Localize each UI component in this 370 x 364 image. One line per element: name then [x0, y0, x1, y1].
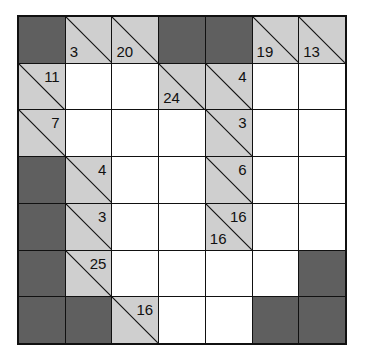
input-cell[interactable]	[159, 251, 205, 297]
across-clue: 16	[230, 209, 247, 224]
blocked-cell	[299, 297, 345, 343]
input-cell[interactable]	[253, 110, 299, 156]
input-cell[interactable]	[112, 64, 158, 110]
input-cell[interactable]	[299, 110, 345, 156]
input-cell[interactable]	[253, 251, 299, 297]
clue-cell: 24	[159, 64, 205, 110]
clue-cell: 3	[206, 110, 252, 156]
input-cell[interactable]	[66, 64, 112, 110]
clue-cell: 19	[253, 17, 299, 63]
input-cell[interactable]	[66, 110, 112, 156]
input-cell[interactable]	[112, 110, 158, 156]
across-clue: 7	[51, 115, 59, 130]
input-cell[interactable]	[299, 157, 345, 203]
across-clue: 25	[90, 256, 107, 271]
clue-cell: 13	[299, 17, 345, 63]
input-cell[interactable]	[159, 110, 205, 156]
input-cell[interactable]	[112, 204, 158, 250]
down-clue: 16	[210, 231, 227, 246]
blocked-cell	[206, 17, 252, 63]
clue-cell: 4	[206, 64, 252, 110]
down-clue: 24	[163, 90, 180, 105]
down-clue: 20	[116, 44, 133, 59]
blocked-cell	[19, 297, 65, 343]
clue-cell: 3	[66, 204, 112, 250]
across-clue: 6	[238, 162, 246, 177]
across-clue: 4	[238, 69, 246, 84]
input-cell[interactable]	[112, 251, 158, 297]
clue-cell: 16	[112, 297, 158, 343]
blocked-cell	[19, 157, 65, 203]
blocked-cell	[19, 17, 65, 63]
clue-cell: 6	[206, 157, 252, 203]
clue-cell: 20	[112, 17, 158, 63]
down-clue: 13	[303, 44, 320, 59]
input-cell[interactable]	[253, 64, 299, 110]
clue-cell: 11	[19, 64, 65, 110]
input-cell[interactable]	[206, 297, 252, 343]
blocked-cell	[66, 297, 112, 343]
across-clue: 3	[238, 115, 246, 130]
clue-cell: 1616	[206, 204, 252, 250]
across-clue: 4	[98, 162, 106, 177]
blocked-cell	[159, 17, 205, 63]
input-cell[interactable]	[299, 204, 345, 250]
kakuro-board: 3201913112447346316162516	[17, 15, 347, 345]
input-cell[interactable]	[112, 157, 158, 203]
across-clue: 11	[44, 69, 60, 84]
clue-cell: 7	[19, 110, 65, 156]
clue-cell: 25	[66, 251, 112, 297]
across-clue: 16	[136, 302, 153, 317]
blocked-cell	[19, 204, 65, 250]
input-cell[interactable]	[253, 204, 299, 250]
input-cell[interactable]	[206, 251, 252, 297]
input-cell[interactable]	[159, 157, 205, 203]
blocked-cell	[299, 251, 345, 297]
clue-cell: 3	[66, 17, 112, 63]
down-clue: 3	[70, 44, 78, 59]
blocked-cell	[253, 297, 299, 343]
across-clue: 3	[98, 209, 106, 224]
input-cell[interactable]	[159, 297, 205, 343]
clue-cell: 4	[66, 157, 112, 203]
input-cell[interactable]	[299, 64, 345, 110]
input-cell[interactable]	[253, 157, 299, 203]
input-cell[interactable]	[159, 204, 205, 250]
down-clue: 19	[257, 44, 274, 59]
blocked-cell	[19, 251, 65, 297]
